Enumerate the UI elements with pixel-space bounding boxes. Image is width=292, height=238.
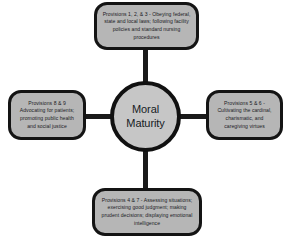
node-box-right: Provisions 5 & 6 - Cultivating the cardi… (206, 90, 283, 140)
node-label-top: Provisions 1, 2, & 3 - Obeying federal, … (102, 11, 191, 42)
node-label-left: Provisions 8 & 9 Advocating for patients… (16, 100, 78, 131)
node-box-bottom: Provisions 4 & 7 - Assessing situations;… (92, 188, 202, 236)
node-box-top: Provisions 1, 2, & 3 - Obeying federal, … (94, 2, 199, 50)
node-label-right: Provisions 5 & 6 - Cultivating the cardi… (214, 100, 275, 131)
moral-maturity-diagram: Provisions 1, 2, & 3 - Obeying federal, … (0, 0, 292, 238)
center-node-moral-maturity: Moral Maturity (110, 81, 181, 152)
node-label-bottom: Provisions 4 & 7 - Assessing situations;… (100, 197, 194, 228)
node-box-left: Provisions 8 & 9 Advocating for patients… (8, 90, 86, 140)
center-node-label: Moral Maturity (114, 103, 177, 131)
